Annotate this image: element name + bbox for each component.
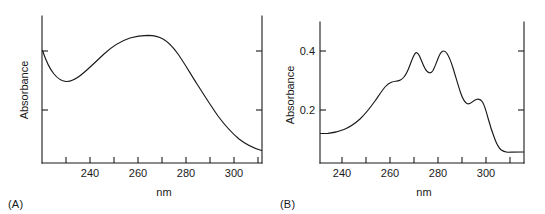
panel-a-xtick-label-260: 260	[129, 167, 147, 179]
panel-b-plot: 0.4 0.2 240 260 280 300 nm Absorbance	[272, 0, 545, 214]
panel-b-curve	[321, 51, 524, 152]
panel-b-xtick-label-280: 280	[429, 167, 447, 179]
panel-a-curve	[43, 35, 262, 150]
panel-a: 240 260 280 300 nm Absorbance (A)	[0, 0, 272, 214]
panel-b-xtick-label-240: 240	[333, 167, 351, 179]
panel-b: 0.4 0.2 240 260 280 300 nm Absorbance (B…	[272, 0, 544, 214]
panel-a-yaxis-title: Absorbance	[18, 61, 30, 120]
panel-b-ytick-label-0-2: 0.2	[300, 104, 315, 116]
panel-a-xaxis-title: nm	[156, 186, 171, 198]
absorbance-spectra-figure: 240 260 280 300 nm Absorbance (A) 0.4	[0, 0, 545, 214]
panel-b-yaxis-title: Absorbance	[284, 66, 296, 125]
panel-a-xtick-label-300: 300	[225, 167, 243, 179]
panel-a-xtick-label-240: 240	[81, 167, 99, 179]
panel-a-plot: 240 260 280 300 nm Absorbance	[0, 0, 272, 214]
panel-b-xtick-label-260: 260	[381, 167, 399, 179]
panel-b-xaxis-title: nm	[416, 186, 431, 198]
panel-b-tag: (B)	[280, 198, 295, 210]
panel-a-tag: (A)	[8, 198, 23, 210]
panel-a-xtick-label-280: 280	[177, 167, 195, 179]
panel-b-xtick-label-300: 300	[477, 167, 495, 179]
panel-b-ytick-label-0-4: 0.4	[300, 45, 315, 57]
